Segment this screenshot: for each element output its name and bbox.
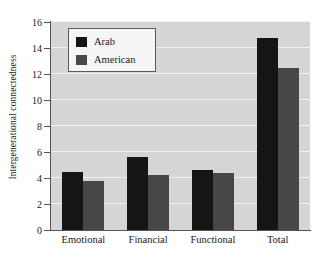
bar-financial-american <box>148 175 169 230</box>
y-tick-mark <box>44 152 50 153</box>
y-tick-label: 14 <box>2 43 42 54</box>
x-tick-label-total: Total <box>267 234 288 245</box>
legend: Arab American <box>68 28 156 72</box>
y-tick-label: 2 <box>2 199 42 210</box>
y-tick-mark <box>44 230 50 231</box>
x-tick-label-financial: Financial <box>129 234 168 245</box>
legend-swatch-american-icon <box>76 55 87 65</box>
y-tick-mark <box>44 178 50 179</box>
y-tick-label: 4 <box>2 173 42 184</box>
bar-chart-figure: Intergenerational connectedness 02468101… <box>0 0 327 263</box>
y-tick-label: 0 <box>2 225 42 236</box>
legend-item-american: American <box>76 51 155 69</box>
y-tick-label: 16 <box>2 17 42 28</box>
bar-financial-arab <box>127 157 148 230</box>
legend-label-american: American <box>94 55 135 66</box>
y-axis-line <box>50 21 51 231</box>
y-tick-mark <box>44 48 50 49</box>
x-tick-label-emotional: Emotional <box>62 234 106 245</box>
bar-functional-arab <box>192 170 213 230</box>
y-tick-label: 6 <box>2 147 42 158</box>
y-tick-mark <box>44 126 50 127</box>
y-tick-mark <box>44 74 50 75</box>
y-tick-mark <box>44 100 50 101</box>
y-axis-tick-labels: 0246810121416 <box>0 0 42 263</box>
bar-emotional-american <box>83 181 104 230</box>
legend-item-arab: Arab <box>76 33 155 51</box>
bar-emotional-arab <box>62 172 83 231</box>
legend-label-arab: Arab <box>94 37 115 48</box>
gridline <box>51 21 310 22</box>
y-tick-mark <box>44 204 50 205</box>
x-tick-label-functional: Functional <box>190 234 235 245</box>
bar-total-arab <box>257 38 278 230</box>
y-tick-mark <box>44 22 50 23</box>
bar-functional-american <box>213 173 234 230</box>
y-tick-label: 8 <box>2 121 42 132</box>
legend-swatch-arab-icon <box>76 37 87 47</box>
x-axis-line <box>50 230 311 231</box>
y-tick-label: 12 <box>2 69 42 80</box>
bar-total-american <box>278 68 299 231</box>
y-tick-label: 10 <box>2 95 42 106</box>
